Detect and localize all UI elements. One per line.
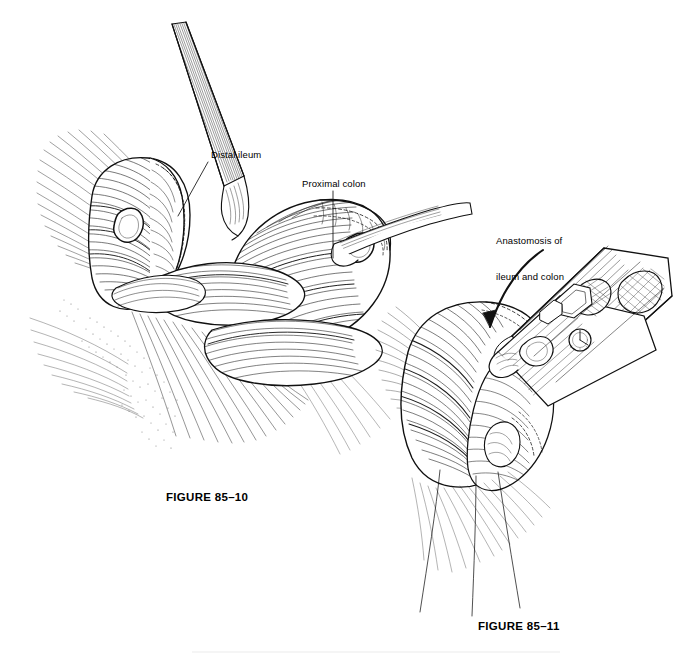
f11-sutures <box>420 470 520 616</box>
label-anastomosis-line-2: ileum and colon <box>496 271 564 283</box>
figure-caption-85-10: FIGURE 85–10 <box>166 491 248 503</box>
label-distal-ileum: Distal ileum <box>211 149 261 161</box>
label-proximal-colon: Proximal colon <box>302 178 366 190</box>
ileum-clamp-aperture <box>114 208 144 242</box>
colon-lower-fold <box>204 315 382 386</box>
label-anastomosis: Anastomosis of ileum and colon <box>496 211 564 307</box>
illustration-plate: Distal ileum Proximal colon Anastomosis … <box>0 0 683 659</box>
stapler-dial <box>569 329 591 351</box>
mesentery-stipple <box>59 300 177 449</box>
figure-caption-85-11: FIGURE 85–11 <box>478 620 560 632</box>
label-anastomosis-line-1: Anastomosis of <box>496 235 564 247</box>
surgical-illustration-canvas <box>0 0 683 659</box>
mesentery-fan-lower-left <box>30 318 143 418</box>
